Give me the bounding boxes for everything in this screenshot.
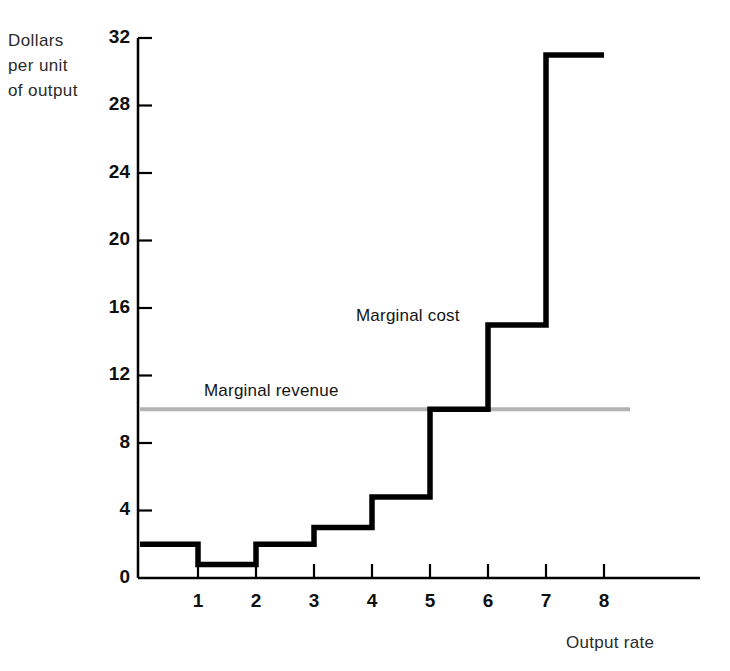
y-tick-label-0: 0 xyxy=(96,566,130,588)
y-tick-label-24: 24 xyxy=(96,161,130,183)
x-tick-label-4: 4 xyxy=(360,590,384,612)
x-axis-title: Output rate xyxy=(566,630,654,655)
y-tick-marks xyxy=(138,38,152,511)
x-tick-label-2: 2 xyxy=(244,590,268,612)
marginal-cost-label: Marginal cost xyxy=(356,306,460,326)
x-tick-label-8: 8 xyxy=(592,590,616,612)
y-tick-label-8: 8 xyxy=(96,431,130,453)
y-tick-label-32: 32 xyxy=(96,26,130,48)
y-axis-title: Dollars per unit of output xyxy=(8,28,78,103)
y-tick-label-12: 12 xyxy=(96,363,130,385)
x-tick-label-6: 6 xyxy=(476,590,500,612)
marginal-revenue-label: Marginal revenue xyxy=(204,381,339,401)
x-tick-label-5: 5 xyxy=(418,590,442,612)
x-tick-label-7: 7 xyxy=(534,590,558,612)
y-tick-label-4: 4 xyxy=(96,498,130,520)
x-tick-marks xyxy=(198,564,604,578)
marginal-cost-revenue-chart: Dollars per unit of output Output rate xyxy=(0,0,730,671)
y-tick-label-16: 16 xyxy=(96,296,130,318)
x-tick-label-1: 1 xyxy=(186,590,210,612)
y-tick-label-20: 20 xyxy=(96,228,130,250)
y-tick-label-28: 28 xyxy=(96,93,130,115)
x-tick-label-3: 3 xyxy=(302,590,326,612)
